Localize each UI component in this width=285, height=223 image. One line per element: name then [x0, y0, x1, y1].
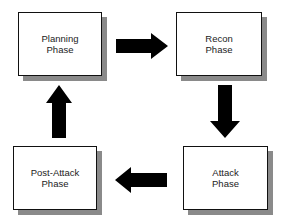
arrow-up-icon [0, 0, 285, 223]
